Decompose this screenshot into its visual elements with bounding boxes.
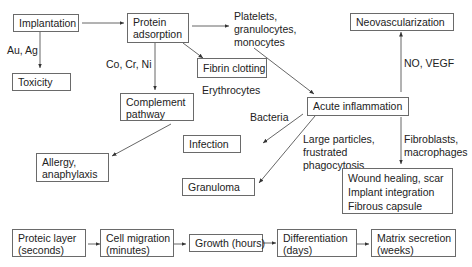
node-granuloma: Granuloma xyxy=(182,178,255,196)
outcome-item: Fibrous capsule xyxy=(348,199,447,213)
label-bacteria: Bacteria xyxy=(250,111,289,123)
label-co-cr-ni: Co, Cr, Ni xyxy=(106,58,152,70)
timeline-step-cell-migration: Cell migration (minutes) xyxy=(100,229,174,257)
node-label: Infection xyxy=(189,138,229,150)
label-large-particles: Large particles, frustrated phagocytosis xyxy=(303,133,375,172)
timeline-step-growth: Growth (hours) xyxy=(189,234,263,252)
timeline-step-differentiation: Differentiation (days) xyxy=(277,229,357,257)
node-protein-adsorption: Protein adsorption xyxy=(127,13,189,43)
node-label-line: pathway xyxy=(126,108,188,120)
node-fibrin-clotting: Fibrin clotting xyxy=(197,58,267,78)
node-outcomes: Wound healing, scar Implant integration … xyxy=(342,168,453,214)
label-cells: Platelets, granulocytes, monocytes xyxy=(234,10,296,49)
node-label-line: Complement xyxy=(126,96,188,108)
node-acute-inflammation: Acute inflammation xyxy=(307,97,409,116)
node-neovascularization: Neovascularization xyxy=(350,13,454,31)
node-label: Toxicity xyxy=(18,76,52,88)
node-label-line: adsorption xyxy=(133,28,183,40)
node-label: Fibrin clotting xyxy=(203,62,265,74)
node-label: Neovascularization xyxy=(356,16,445,28)
node-label: Granuloma xyxy=(188,181,240,193)
label-erythrocytes: Erythrocytes xyxy=(202,84,260,96)
label-fibroblasts: Fibroblasts, macrophages xyxy=(404,133,468,159)
node-label-line: Protein xyxy=(133,16,183,28)
node-label-line: anaphylaxis xyxy=(42,168,103,180)
timeline-step-proteic-layer: Proteic layer (seconds) xyxy=(12,229,86,257)
timeline-step-matrix-secretion: Matrix secretion (weeks) xyxy=(371,229,456,257)
node-toxicity: Toxicity xyxy=(12,73,71,91)
node-label: Implantation xyxy=(19,17,76,29)
node-implantation: Implantation xyxy=(13,14,79,32)
node-allergy: Allergy, anaphylaxis xyxy=(36,153,109,182)
label-no-vegf: NO, VEGF xyxy=(404,57,454,69)
outcome-item: Wound healing, scar xyxy=(348,171,447,185)
node-label-line: Allergy, xyxy=(42,156,103,168)
node-infection: Infection xyxy=(183,135,241,153)
node-complement-pathway: Complement pathway xyxy=(120,93,194,121)
label-au-ag: Au, Ag xyxy=(7,44,38,56)
node-label: Acute inflammation xyxy=(313,100,402,112)
outcome-item: Implant integration xyxy=(348,185,447,199)
